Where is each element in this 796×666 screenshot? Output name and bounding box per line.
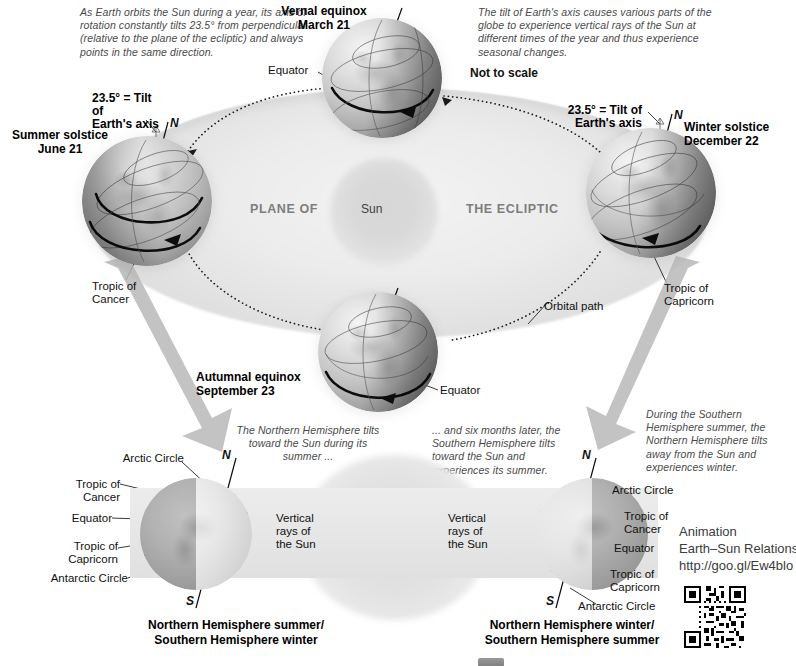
north-marker-summer: N (170, 116, 179, 130)
vernal-date: March 21 (254, 18, 394, 32)
lower-right-antarctic-circle: Antarctic Circle (578, 600, 684, 613)
animation-url[interactable]: http://goo.gl/Ew4blo (679, 557, 796, 574)
label-tropic-of-capricorn-orbit: Tropic of Capricorn (664, 282, 736, 308)
right-rays-line1: Vertical (448, 512, 508, 525)
label-vernal-equator: Equator (268, 64, 308, 77)
tropic-cancer-text: Tropic of Cancer (92, 280, 162, 306)
lower-right-arctic-circle: Arctic Circle (612, 484, 708, 497)
lower-right-equator: Equator (614, 542, 684, 555)
caption-lower-left: Northern Hemisphere summer/ Southern Hem… (106, 618, 366, 647)
winter-event: Winter solstice (684, 120, 794, 134)
lower-left-antarctic-circle: Antarctic Circle (44, 572, 128, 585)
lower-right-tropic-cancer: Tropic of Cancer (624, 510, 686, 536)
bottom-edge-chip (478, 658, 504, 666)
caption-left-line1: Northern Hemisphere summer/ (106, 618, 366, 633)
lower-left-equator: Equator (40, 512, 112, 525)
globe-lower-left (140, 478, 252, 590)
south-marker-lower-right: S (546, 594, 554, 608)
tilt-left-line2: Earth's axis (92, 118, 164, 131)
left-rays-line1: Vertical (276, 512, 336, 525)
caption-left-line2: Southern Hemisphere winter (106, 633, 366, 648)
not-to-scale-label: Not to scale (470, 66, 538, 80)
right-rays-line2: rays of (448, 525, 508, 538)
south-marker-lower-left: S (186, 594, 194, 608)
caption-right-line1: Northern Hemisphere winter/ (448, 618, 696, 633)
autumnal-event: Autumnal equinox (196, 370, 346, 384)
lower-left-tropic-capricorn: Tropic of Capricorn (46, 540, 118, 566)
label-winter-solstice: Winter solstice December 22 (684, 120, 794, 148)
label-vernal-equinox: Vernal equinox March 21 (254, 4, 394, 32)
lower-left-tropic-cancer: Tropic of Cancer (54, 478, 120, 504)
caption-lower-right: Northern Hemisphere winter/ Southern Hem… (448, 618, 696, 647)
lower-left-vertical-rays: Vertical rays of the Sun (276, 512, 336, 551)
orbital-path-curve-3 (452, 252, 600, 340)
vernal-event: Vernal equinox (254, 4, 394, 18)
vernal-rotation-arrow (322, 18, 442, 138)
label-summer-solstice: Summer solstice June 21 (2, 128, 118, 156)
diagram-canvas: Sun PLANE OF THE ECLIPTIC (0, 0, 796, 666)
lower-right-tropic-capricorn: Tropic of Capricorn (610, 568, 676, 594)
note-bottom-left: The Northern Hemisphere tilts toward the… (228, 424, 388, 464)
qr-code-icon[interactable] (679, 581, 751, 653)
tilt-right-line2: Earth's axis (566, 117, 642, 130)
label-tilt-left: 23.5° = Tilt of Earth's axis (92, 92, 164, 131)
animation-subtitle: Earth–Sun Relations (679, 540, 796, 557)
note-bottom-middle: ... and six months later, the Southern H… (432, 424, 582, 477)
left-rays-line2: rays of (276, 525, 336, 538)
right-rays-line3: the Sun (448, 538, 508, 551)
label-tropic-of-cancer-orbit: Tropic of Cancer (92, 280, 162, 306)
autumnal-date: September 23 (196, 384, 346, 398)
label-autumnal-equinox: Autumnal equinox September 23 (196, 370, 346, 398)
winter-date: December 22 (684, 134, 794, 148)
caption-right-line2: Southern Hemisphere summer (448, 633, 696, 648)
note-bottom-right: During the Southern Hemisphere summer, t… (646, 408, 788, 474)
summer-date: June 21 (2, 142, 118, 156)
north-marker-lower-right: N (582, 448, 591, 462)
north-marker-lower-left: N (222, 448, 231, 462)
note-top-right: The tilt of Earth's axis causes various … (478, 6, 728, 59)
lower-right-vertical-rays: Vertical rays of the Sun (448, 512, 508, 551)
tilt-left-line1: 23.5° = Tilt of (92, 92, 164, 118)
qr-code-box[interactable] (679, 581, 751, 653)
label-orbital-path: Orbital path (544, 300, 604, 313)
tropic-capricorn-text: Tropic of Capricorn (664, 282, 736, 308)
animation-title: Animation (679, 523, 796, 540)
lower-left-arctic-circle: Arctic Circle (82, 452, 184, 465)
label-autumnal-equator: Equator (440, 384, 480, 397)
label-tilt-right: 23.5° = Tilt of Earth's axis (566, 104, 642, 130)
north-marker-winter: N (674, 108, 683, 122)
animation-info: Animation Earth–Sun Relations http://goo… (679, 523, 796, 574)
left-rays-line3: the Sun (276, 538, 336, 551)
orbital-path-text: Orbital path (544, 300, 603, 312)
